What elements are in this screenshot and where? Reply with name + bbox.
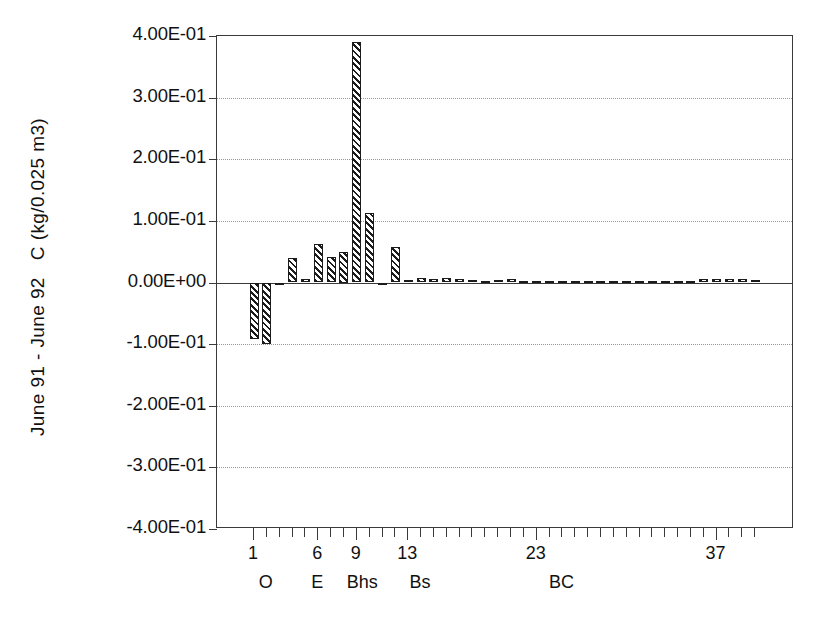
horizon-label: BC: [549, 572, 574, 593]
gridline: [217, 344, 792, 345]
bar: [455, 279, 464, 283]
x-axis-minor-tick: [664, 528, 665, 537]
x-axis-major-tick: [716, 528, 717, 540]
x-axis-minor-tick: [330, 528, 331, 537]
bar: [622, 281, 631, 283]
x-axis-minor-tick: [677, 528, 678, 537]
bar: [301, 279, 310, 282]
x-axis-minor-tick: [394, 528, 395, 537]
bar: [314, 244, 323, 282]
x-axis-minor-tick: [433, 528, 434, 537]
bar: [661, 281, 670, 283]
x-axis-ticks: [216, 528, 793, 540]
gridline: [217, 98, 792, 99]
horizon-label: Bhs: [347, 572, 378, 593]
x-axis-minor-tick: [420, 528, 421, 537]
x-axis-minor-tick: [510, 528, 511, 537]
y-axis-tick-label: 2.00E-01: [66, 146, 206, 168]
x-axis-minor-tick: [471, 528, 472, 537]
horizon-group-labels: OEBhsBsBC: [0, 572, 822, 598]
bar: [635, 281, 644, 283]
y-axis-tick-label: 0.00E+00: [66, 270, 206, 292]
bar: [751, 280, 760, 282]
bar-chart: June 91 - June 92 C (kg/0.025 m3) 4.00E-…: [0, 0, 822, 620]
x-axis-tick-label: 37: [706, 543, 726, 564]
bar: [404, 280, 413, 282]
y-axis-tick: [209, 283, 217, 284]
bar: [712, 279, 721, 283]
gridline: [217, 406, 792, 407]
y-axis-tick: [209, 98, 217, 99]
x-axis-tick-labels: 169132337: [0, 543, 822, 569]
bar: [417, 278, 426, 282]
x-axis-minor-tick: [574, 528, 575, 537]
x-axis-minor-tick: [304, 528, 305, 537]
bar: [545, 281, 554, 283]
bar: [699, 279, 708, 283]
x-axis-minor-tick: [741, 528, 742, 537]
x-axis-minor-tick: [703, 528, 704, 537]
x-axis-minor-tick: [754, 528, 755, 537]
horizon-label: E: [311, 572, 323, 593]
x-axis-minor-tick: [690, 528, 691, 537]
bar: [481, 281, 490, 283]
x-axis-minor-tick: [484, 528, 485, 537]
bar: [494, 280, 503, 282]
x-axis-minor-tick: [728, 528, 729, 537]
x-axis-minor-tick: [292, 528, 293, 537]
y-axis-tick-label: 1.00E-01: [66, 208, 206, 230]
bar: [571, 281, 580, 283]
bar: [339, 252, 348, 283]
bar: [352, 42, 361, 282]
x-axis-tick-label: 9: [351, 543, 361, 564]
x-axis-major-tick: [407, 528, 408, 540]
bar: [468, 280, 477, 282]
y-axis-tick-labels: 4.00E-013.00E-012.00E-011.00E-010.00E+00…: [56, 0, 206, 620]
gridline: [217, 159, 792, 160]
bar: [584, 281, 593, 283]
x-axis-minor-tick: [639, 528, 640, 537]
x-axis-minor-tick: [446, 528, 447, 537]
bar: [674, 281, 683, 283]
x-axis-major-tick: [356, 528, 357, 540]
x-axis-minor-tick: [613, 528, 614, 537]
bar: [558, 281, 567, 283]
x-axis-minor-tick: [343, 528, 344, 537]
y-axis-tick: [209, 36, 217, 37]
x-axis-major-tick: [536, 528, 537, 540]
bar: [327, 257, 336, 283]
bar: [519, 281, 528, 283]
plot-area: [216, 35, 793, 528]
x-axis-tick-label: 13: [397, 543, 417, 564]
x-axis-tick-label: 23: [526, 543, 546, 564]
y-axis-tick-label: -2.00E-01: [66, 393, 206, 415]
bar: [365, 213, 374, 283]
bar: [378, 283, 387, 285]
x-axis-major-tick: [317, 528, 318, 540]
y-axis-tick-label: 3.00E-01: [66, 85, 206, 107]
x-axis-minor-tick: [266, 528, 267, 537]
y-axis-tick: [209, 467, 217, 468]
y-axis-tick: [209, 406, 217, 407]
y-axis-tick-label: -1.00E-01: [66, 331, 206, 353]
bar: [648, 281, 657, 283]
bar: [532, 281, 541, 283]
bar: [596, 281, 605, 283]
bar: [738, 279, 747, 283]
x-axis-minor-tick: [561, 528, 562, 537]
x-axis-minor-tick: [626, 528, 627, 537]
gridline: [217, 221, 792, 222]
horizon-label: Bs: [410, 572, 431, 593]
gridline: [217, 467, 792, 468]
bar: [442, 278, 451, 282]
x-axis-minor-tick: [600, 528, 601, 537]
bar: [609, 281, 618, 283]
bar: [262, 283, 271, 345]
x-axis-minor-tick: [549, 528, 550, 537]
x-axis-major-tick: [253, 528, 254, 540]
y-axis-tick: [209, 221, 217, 222]
bar: [275, 283, 284, 285]
x-axis-minor-tick: [382, 528, 383, 537]
y-axis-tick: [209, 159, 217, 160]
x-axis-minor-tick: [369, 528, 370, 537]
